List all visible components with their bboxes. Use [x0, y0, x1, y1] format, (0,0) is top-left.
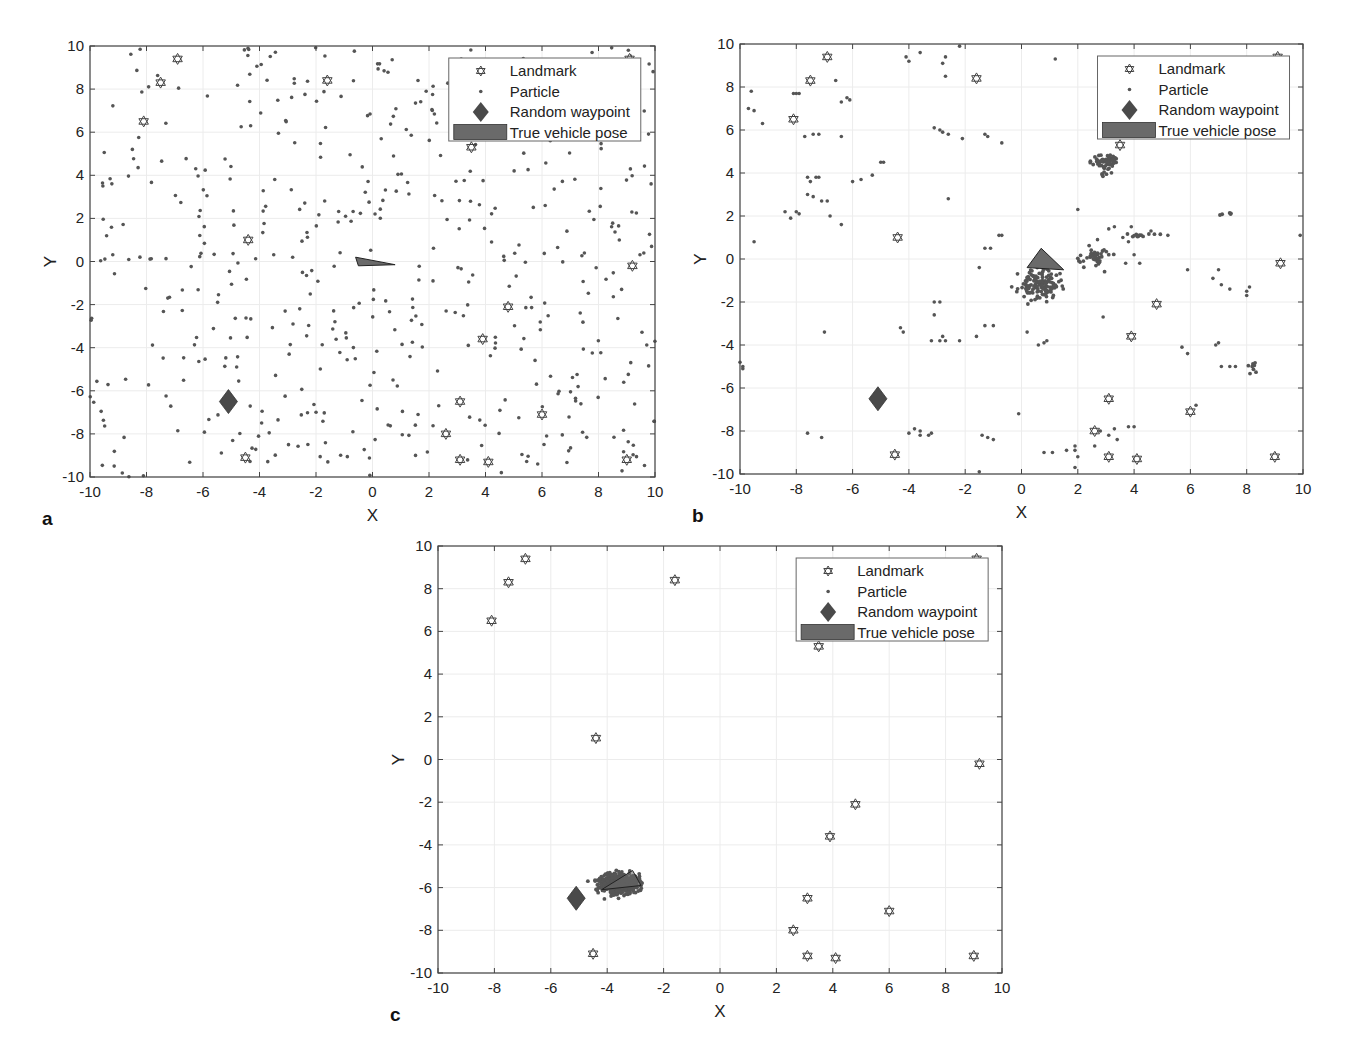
legend: LandmarkParticleRandom waypointTrue vehi… — [449, 58, 641, 141]
hexagram-icon — [504, 577, 514, 588]
waypoint-diamond-icon — [567, 886, 585, 910]
hexagram-icon — [814, 641, 824, 652]
x-tick-label: 0 — [716, 979, 724, 996]
panel-label: c — [390, 1004, 401, 1025]
y-tick-label: 8 — [424, 580, 432, 597]
legend-entry-label: True vehicle pose — [857, 624, 975, 641]
x-tick-label: -10 — [729, 480, 751, 497]
legend-entry-label: Particle — [510, 83, 560, 100]
hexagram-icon — [156, 77, 166, 88]
dot-icon — [1128, 88, 1132, 92]
panel-label: b — [692, 505, 704, 526]
hexagram-icon — [1152, 299, 1162, 310]
y-tick-label: -2 — [721, 293, 734, 310]
x-tick-label: 4 — [481, 483, 489, 500]
y-tick-label: 4 — [424, 665, 432, 682]
y-axis-label: Y — [691, 253, 710, 264]
x-tick-label: 6 — [1186, 480, 1194, 497]
dot-icon — [826, 590, 830, 594]
y-tick-label: -6 — [71, 382, 84, 399]
y-tick-label: 0 — [424, 751, 432, 768]
y-tick-label: -6 — [419, 879, 432, 896]
x-tick-label: 10 — [1295, 480, 1312, 497]
x-tick-label: 8 — [941, 979, 949, 996]
legend-entry-label: True vehicle pose — [1159, 122, 1277, 139]
hexagram-icon — [851, 799, 861, 810]
x-tick-label: 2 — [425, 483, 433, 500]
x-tick-label: 4 — [1130, 480, 1138, 497]
y-tick-label: 0 — [726, 250, 734, 267]
y-tick-label: 6 — [726, 121, 734, 138]
hexagram-icon — [972, 73, 982, 84]
x-axis-label: X — [367, 506, 378, 525]
y-tick-label: -10 — [410, 964, 432, 981]
chart-panel-c: -10-8-6-4-20246810-10-8-6-4-20246810XYcL… — [389, 537, 1010, 1025]
x-tick-label: 0 — [1017, 480, 1025, 497]
y-tick-label: 6 — [424, 622, 432, 639]
x-tick-label: -10 — [427, 979, 449, 996]
y-tick-label: -10 — [712, 465, 734, 482]
x-tick-label: -10 — [79, 483, 101, 500]
legend-entry-label: Landmark — [510, 62, 577, 79]
y-tick-label: -4 — [721, 336, 734, 353]
y-tick-label: -4 — [71, 339, 84, 356]
y-tick-label: -2 — [71, 296, 84, 313]
hexagram-icon — [969, 950, 979, 961]
y-tick-label: 0 — [76, 253, 84, 270]
x-axis-label: X — [1016, 503, 1027, 522]
hexagram-icon — [823, 51, 833, 62]
y-tick-label: 2 — [424, 708, 432, 725]
y-tick-label: -4 — [419, 836, 432, 853]
hexagram-icon — [591, 733, 601, 744]
x-tick-label: -6 — [196, 483, 209, 500]
y-tick-label: -8 — [419, 921, 432, 938]
waypoint-diamond-icon — [869, 387, 887, 411]
legend-entry-label: Random waypoint — [857, 603, 978, 620]
legend-entry-label: Landmark — [1159, 60, 1226, 77]
y-tick-label: -10 — [62, 468, 84, 485]
filled-rect-icon — [1103, 123, 1156, 138]
y-axis-label: Y — [389, 754, 408, 765]
y-tick-label: -8 — [721, 422, 734, 439]
x-tick-label: -4 — [601, 979, 614, 996]
x-tick-label: 10 — [994, 979, 1011, 996]
hexagram-icon — [243, 234, 253, 245]
x-tick-label: -4 — [902, 480, 915, 497]
legend-entry-label: True vehicle pose — [510, 124, 628, 141]
x-tick-label: 2 — [772, 979, 780, 996]
hexagram-icon — [503, 301, 513, 312]
hexagram-icon — [1104, 451, 1114, 462]
x-tick-label: 2 — [1074, 480, 1082, 497]
legend-entry-label: Particle — [1159, 81, 1209, 98]
hexagram-icon — [1104, 393, 1114, 404]
x-tick-label: 0 — [368, 483, 376, 500]
legend: LandmarkParticleRandom waypointTrue vehi… — [1098, 56, 1290, 139]
x-tick-label: -2 — [309, 483, 322, 500]
chart-panel-b: -10-8-6-4-20246810-10-8-6-4-20246810XYbL… — [691, 35, 1311, 526]
hexagram-icon — [803, 893, 813, 904]
hexagram-icon — [622, 454, 632, 465]
y-tick-label: 4 — [76, 166, 84, 183]
x-tick-label: 10 — [647, 483, 664, 500]
hexagram-icon — [323, 75, 333, 86]
y-tick-label: 10 — [717, 35, 734, 52]
panel-label: a — [42, 508, 53, 529]
hexagram-icon — [1115, 140, 1125, 151]
hexagram-icon — [173, 53, 183, 64]
x-tick-label: -4 — [253, 483, 266, 500]
y-tick-label: 8 — [726, 78, 734, 95]
figure-canvas: -10-8-6-4-20246810-10-8-6-4-20246810XYaL… — [0, 0, 1349, 1054]
chart-panel-a: -10-8-6-4-20246810-10-8-6-4-20246810XYaL… — [41, 37, 663, 529]
x-tick-label: -6 — [846, 480, 859, 497]
legend: LandmarkParticleRandom waypointTrue vehi… — [796, 558, 988, 641]
y-tick-label: 2 — [726, 207, 734, 224]
hexagram-icon — [789, 925, 799, 936]
y-tick-label: -2 — [419, 793, 432, 810]
hexagram-icon — [455, 454, 465, 465]
y-tick-label: -6 — [721, 379, 734, 396]
y-tick-label: 8 — [76, 80, 84, 97]
x-tick-label: -8 — [140, 483, 153, 500]
x-tick-label: 8 — [1243, 480, 1251, 497]
waypoint-diamond-icon — [219, 390, 237, 414]
x-tick-label: 6 — [538, 483, 546, 500]
